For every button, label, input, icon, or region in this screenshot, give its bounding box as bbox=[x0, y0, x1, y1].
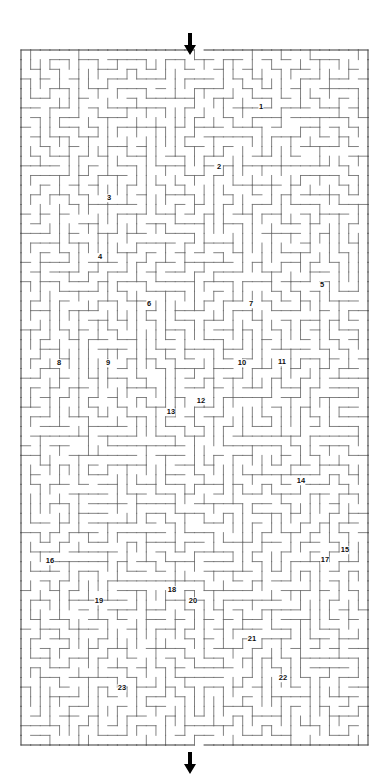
checkpoint-label-19: 19 bbox=[94, 597, 103, 605]
checkpoint-label-8: 8 bbox=[56, 359, 61, 367]
checkpoint-label-18: 18 bbox=[167, 586, 176, 594]
checkpoint-label-22: 22 bbox=[278, 674, 287, 682]
checkpoint-label-10: 10 bbox=[237, 359, 246, 367]
checkpoint-label-16: 16 bbox=[45, 557, 54, 565]
checkpoint-label-7: 7 bbox=[248, 300, 253, 308]
checkpoint-label-11: 11 bbox=[278, 358, 287, 366]
checkpoint-label-23: 23 bbox=[117, 684, 126, 692]
maze-page: 1234567891011121314151617181920212223 bbox=[0, 0, 388, 780]
checkpoint-label-21: 21 bbox=[247, 635, 256, 643]
exit-arrow bbox=[182, 752, 198, 774]
checkpoint-label-12: 12 bbox=[196, 397, 205, 405]
checkpoint-label-14: 14 bbox=[296, 477, 305, 485]
checkpoint-label-13: 13 bbox=[166, 408, 175, 416]
checkpoint-label-2: 2 bbox=[216, 163, 221, 171]
maze-canvas bbox=[0, 0, 388, 780]
checkpoint-label-4: 4 bbox=[97, 253, 102, 261]
checkpoint-label-20: 20 bbox=[188, 597, 197, 605]
checkpoint-label-5: 5 bbox=[319, 281, 324, 289]
checkpoint-label-1: 1 bbox=[258, 103, 263, 111]
checkpoint-label-9: 9 bbox=[105, 359, 110, 367]
checkpoint-label-6: 6 bbox=[146, 300, 151, 308]
checkpoint-label-17: 17 bbox=[320, 556, 329, 564]
checkpoint-label-15: 15 bbox=[340, 546, 349, 554]
checkpoint-label-3: 3 bbox=[106, 194, 111, 202]
entry-arrow bbox=[182, 33, 198, 55]
